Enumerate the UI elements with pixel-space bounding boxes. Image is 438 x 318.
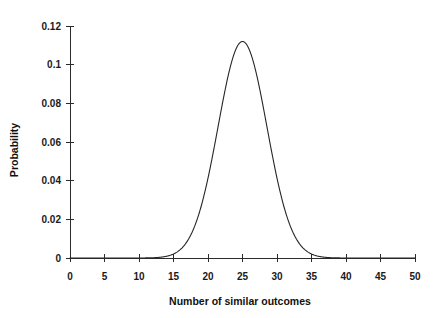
probability-distribution-chart: 00.020.040.060.080.10.12 051015202530354…: [0, 0, 438, 318]
x-tick-label: 35: [306, 271, 318, 282]
y-tick-label: 0.06: [42, 137, 62, 148]
y-axis: 00.020.040.060.080.10.12: [42, 21, 74, 264]
y-tick-label: 0.02: [42, 214, 62, 225]
x-tick-label: 50: [409, 271, 421, 282]
x-tick-label: 40: [340, 271, 352, 282]
y-tick-label: 0.04: [42, 175, 62, 186]
x-tick-label: 45: [375, 271, 387, 282]
x-tick-label: 15: [168, 271, 180, 282]
data-curve-group: [70, 41, 415, 258]
y-tick-label: 0.1: [47, 59, 61, 70]
x-axis-title: Number of similar outcomes: [169, 295, 311, 307]
x-tick-label: 10: [133, 271, 145, 282]
x-tick-label: 5: [102, 271, 108, 282]
distribution-curve: [70, 41, 415, 258]
y-tick-label: 0.12: [42, 21, 62, 32]
x-tick-label: 0: [67, 271, 73, 282]
x-tick-label: 30: [271, 271, 283, 282]
x-tick-label: 25: [237, 271, 249, 282]
x-tick-label: 20: [202, 271, 214, 282]
chart-container: 00.020.040.060.080.10.12 051015202530354…: [0, 0, 438, 318]
y-tick-label: 0: [55, 253, 61, 264]
y-tick-label: 0.08: [42, 98, 62, 109]
y-axis-title: Probability: [8, 123, 20, 177]
